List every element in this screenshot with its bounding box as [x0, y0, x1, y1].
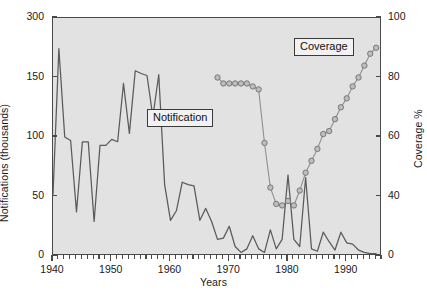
- y-tick-mark-left: [52, 76, 57, 77]
- x-tick-mark: [228, 255, 229, 261]
- x-tick-mark: [75, 255, 76, 259]
- x-tick-mark: [234, 255, 235, 259]
- coverage-marker: [227, 81, 232, 86]
- x-tick-mark: [110, 255, 111, 261]
- x-tick-mark: [357, 255, 358, 259]
- y-tick-label-right: 0: [388, 248, 422, 260]
- coverage-marker: [309, 158, 314, 163]
- x-tick-mark: [222, 255, 223, 259]
- x-tick-mark: [251, 255, 252, 259]
- y-tick-label-right: 100: [388, 10, 422, 22]
- coverage-markers: [215, 45, 379, 208]
- chart-figure: Notifications (thousands) Coverage % Yea…: [0, 0, 427, 305]
- y-tick-mark-left: [52, 254, 57, 255]
- x-tick-mark: [204, 255, 205, 259]
- x-tick-mark: [328, 255, 329, 259]
- x-tick-mark: [69, 255, 70, 259]
- x-tick-mark: [63, 255, 64, 259]
- x-tick-label: 1980: [263, 263, 311, 275]
- x-tick-mark: [333, 255, 334, 259]
- coverage-marker: [315, 146, 320, 151]
- coverage-marker: [303, 170, 308, 175]
- x-tick-mark: [128, 255, 129, 259]
- coverage-marker: [279, 203, 284, 208]
- x-tick-label: 1950: [87, 263, 135, 275]
- y-tick-label-right: 80: [388, 70, 422, 82]
- x-tick-mark: [81, 255, 82, 259]
- coverage-marker: [285, 198, 290, 203]
- coverage-marker: [332, 116, 337, 121]
- x-tick-mark: [216, 255, 217, 259]
- y-tick-label-left: 300: [10, 10, 44, 22]
- coverage-marker: [238, 81, 243, 86]
- y-tick-label-right: 60: [388, 129, 422, 141]
- coverage-marker: [215, 75, 220, 80]
- x-tick-mark: [345, 255, 346, 261]
- y-tick-label-left: 100: [10, 129, 44, 141]
- x-tick-mark: [57, 255, 58, 259]
- coverage-marker: [262, 140, 267, 145]
- x-tick-mark: [145, 255, 146, 259]
- x-tick-mark: [87, 255, 88, 259]
- x-tick-mark: [298, 255, 299, 259]
- notification-series-label: Notification: [147, 109, 213, 127]
- x-tick-mark: [369, 255, 370, 259]
- coverage-marker: [368, 51, 373, 56]
- x-tick-mark: [163, 255, 164, 259]
- x-tick-mark: [292, 255, 293, 259]
- notification-line: [53, 49, 376, 254]
- coverage-marker: [232, 81, 237, 86]
- cut-caption: [0, 296, 427, 305]
- coverage-marker: [274, 201, 279, 206]
- y-tick-mark-right: [376, 76, 381, 77]
- x-tick-mark: [175, 255, 176, 259]
- coverage-marker: [291, 203, 296, 208]
- coverage-marker: [326, 128, 331, 133]
- y-tick-label-left: 50: [10, 189, 44, 201]
- coverage-marker: [338, 105, 343, 110]
- x-tick-mark: [187, 255, 188, 259]
- y-tick-label-left: 0: [10, 248, 44, 260]
- x-tick-mark: [304, 255, 305, 259]
- x-tick-mark: [51, 255, 52, 261]
- x-tick-mark: [98, 255, 99, 259]
- x-tick-mark: [181, 255, 182, 259]
- x-tick-mark: [281, 255, 282, 259]
- x-tick-mark: [134, 255, 135, 259]
- x-tick-mark: [322, 255, 323, 259]
- x-tick-label: 1990: [322, 263, 370, 275]
- x-tick-mark: [210, 255, 211, 259]
- x-tick-mark: [339, 255, 340, 259]
- x-tick-mark: [310, 255, 311, 259]
- x-tick-mark: [257, 255, 258, 259]
- coverage-marker: [373, 45, 378, 50]
- x-tick-mark: [380, 255, 381, 259]
- x-tick-mark: [239, 255, 240, 259]
- x-tick-mark: [269, 255, 270, 259]
- x-tick-mark: [286, 255, 287, 261]
- x-tick-mark: [192, 255, 193, 259]
- x-tick-mark: [245, 255, 246, 259]
- x-tick-label: 1970: [204, 263, 252, 275]
- x-tick-mark: [198, 255, 199, 259]
- x-tick-mark: [263, 255, 264, 259]
- coverage-marker: [256, 87, 261, 92]
- x-tick-mark: [275, 255, 276, 259]
- x-tick-mark: [104, 255, 105, 259]
- coverage-series-label: Coverage: [294, 38, 354, 56]
- coverage-marker: [221, 81, 226, 86]
- x-tick-mark: [140, 255, 141, 259]
- x-tick-mark: [93, 255, 94, 259]
- x-tick-mark: [316, 255, 317, 259]
- coverage-marker: [362, 63, 367, 68]
- coverage-marker: [350, 84, 355, 89]
- x-tick-mark: [351, 255, 352, 259]
- y-tick-mark-left: [52, 16, 57, 17]
- coverage-marker: [250, 84, 255, 89]
- coverage-line: [218, 48, 377, 206]
- coverage-marker: [297, 188, 302, 193]
- y-tick-label-left: 150: [10, 70, 44, 82]
- y-tick-mark-left: [52, 135, 57, 136]
- x-tick-mark: [375, 255, 376, 259]
- coverage-marker: [321, 131, 326, 136]
